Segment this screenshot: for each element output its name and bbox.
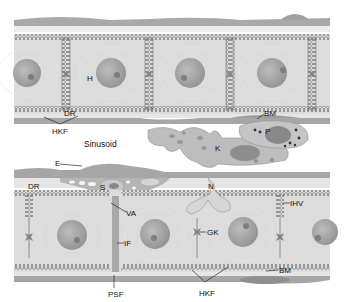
label-n: N [208,182,214,191]
label-hkf-top: HKF [52,127,68,136]
label-ihv: IHV [290,199,303,208]
label-psf: PSF [108,290,124,299]
top-hepatocyte-plate [0,14,330,124]
liver-sinusoid-diagram: H DR HKF BM P K Sinusoid E DR S VA N IHV… [0,0,345,302]
label-basement-membrane-top: BM [264,109,276,118]
diagram-canvas [0,0,345,302]
label-va: VA [126,209,136,218]
label-sinusoid: Sinusoid [84,140,117,149]
label-pit-cell: P [265,127,270,136]
label-hkf-bottom: HKF [199,289,215,298]
label-desmosome-bottom: DR [28,182,40,191]
label-basement-membrane-bottom: BM [279,266,291,275]
label-endothelium: E [55,159,60,168]
label-stellate-cell: S [100,183,105,192]
label-kupffer-cell: K [215,144,220,153]
label-gap-junction: GK [207,228,219,237]
label-desmosome-top: DR [64,109,76,118]
label-if: IF [124,239,131,248]
label-hepatocyte: H [87,74,93,83]
